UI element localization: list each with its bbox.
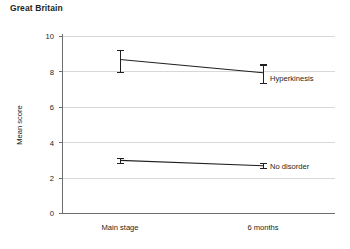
plot-area: 10 8 6 4 2 0 Mean score Main stage 6 mon… [0,0,350,249]
gridlines [63,37,336,179]
x-tick-label-6-months: 6 months [247,223,278,232]
y-tick-label-0: 0 [50,209,54,218]
y-tick-labels: 10 8 6 4 2 0 [46,32,54,218]
series-no-disorder: No disorder [117,158,310,170]
line-chart-svg: 10 8 6 4 2 0 Mean score Main stage 6 mon… [0,0,350,249]
y-tick-label-6: 6 [50,103,54,112]
series-hyperkinesis-line [120,60,263,73]
series-hyperkinesis: Hyperkinesis [117,51,314,84]
y-tick-label-8: 8 [50,68,54,77]
y-tick-marks [59,37,63,214]
chart-figure: Great Britain [0,0,350,249]
series-label-no-disorder: No disorder [270,162,310,171]
x-tick-labels: Main stage 6 months [101,223,278,232]
series-no-disorder-line [120,160,263,165]
x-tick-label-main-stage: Main stage [101,223,138,232]
y-axis-title: Mean score [15,105,24,145]
axes [63,34,336,214]
y-tick-label-2: 2 [50,174,54,183]
y-tick-label-4: 4 [50,139,54,148]
y-tick-label-10: 10 [46,32,54,41]
series-label-hyperkinesis: Hyperkinesis [270,74,314,83]
